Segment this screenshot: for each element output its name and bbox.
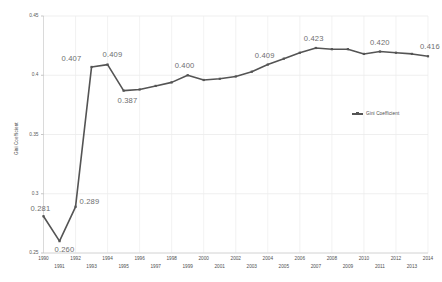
- data-point-label: 0.409: [103, 50, 123, 59]
- data-point-label: 0.420: [370, 38, 390, 47]
- x-axis-tick-label: 2014: [416, 256, 440, 261]
- x-axis-tick-label: 2008: [320, 256, 344, 261]
- y-axis-tick-label: 0.45: [15, 13, 39, 18]
- x-axis-tick-label: 1993: [80, 264, 104, 269]
- x-axis-tick-label: 1990: [32, 256, 56, 261]
- data-point-label: 0.260: [55, 245, 75, 254]
- x-axis-tick-label: 2004: [256, 256, 280, 261]
- y-axis-tick-label: 0.3: [15, 191, 39, 196]
- data-point-label: 0.400: [175, 61, 195, 70]
- x-axis-tick-label: 1999: [176, 264, 200, 269]
- data-point-label: 0.407: [62, 54, 82, 63]
- gini-coefficient-line-chart: Gini Coefficient 0.250.30.350.40.45 1990…: [0, 0, 442, 282]
- x-axis-tick-label: 2006: [288, 256, 312, 261]
- data-point-label: 0.409: [255, 51, 275, 60]
- y-axis-tick-label: 0.25: [15, 250, 39, 255]
- x-axis-tick-label: 1998: [160, 256, 184, 261]
- data-point-label: 0.387: [118, 96, 138, 105]
- y-axis-tick-label: 0.35: [15, 132, 39, 137]
- data-point-label: 0.289: [80, 197, 100, 206]
- legend-label: Gini Coefficient: [366, 111, 399, 116]
- x-axis-tick-label: 2002: [224, 256, 248, 261]
- data-point-label: 0.281: [31, 204, 51, 213]
- legend-line-swatch-icon: [352, 113, 363, 115]
- x-axis-tick-label: 1992: [64, 256, 88, 261]
- x-axis-tick-label: 2003: [240, 264, 264, 269]
- chart-legend: Gini Coefficient: [352, 111, 399, 116]
- x-axis-tick-label: 2009: [336, 264, 360, 269]
- data-point-label: 0.416: [420, 42, 440, 51]
- x-axis-tick-label: 1997: [144, 264, 168, 269]
- x-axis-tick-label: 2000: [192, 256, 216, 261]
- x-axis-tick-label: 2011: [368, 264, 392, 269]
- x-axis-tick-label: 1995: [112, 264, 136, 269]
- x-axis-tick-label: 2012: [384, 256, 408, 261]
- y-axis-title: Gini Coefficient: [14, 122, 19, 155]
- x-axis-tick-label: 2005: [272, 264, 296, 269]
- x-axis-tick-label: 2013: [400, 264, 424, 269]
- x-axis-tick-label: 2007: [304, 264, 328, 269]
- x-axis-tick-label: 2010: [352, 256, 376, 261]
- data-point-label: 0.423: [304, 34, 324, 43]
- y-axis-tick-label: 0.4: [15, 72, 39, 77]
- x-axis-tick-label: 1991: [48, 264, 72, 269]
- x-axis-tick-label: 1996: [128, 256, 152, 261]
- x-axis-tick-label: 2001: [208, 264, 232, 269]
- x-axis-tick-label: 1994: [96, 256, 120, 261]
